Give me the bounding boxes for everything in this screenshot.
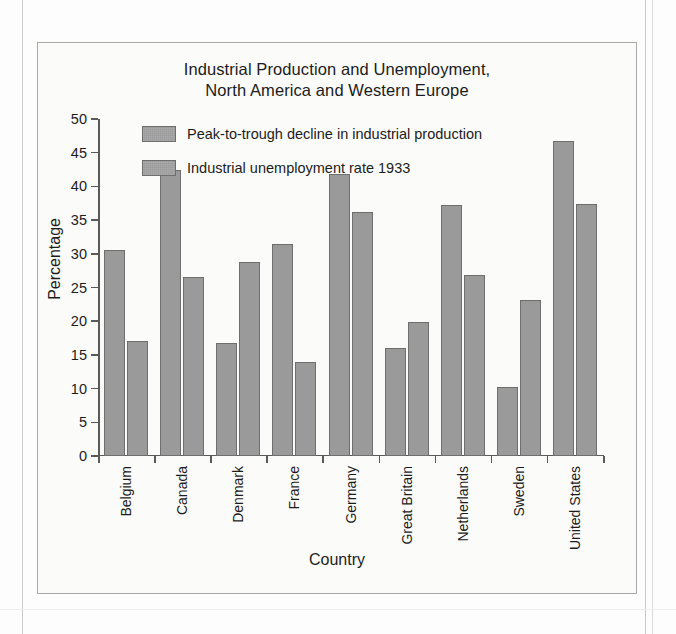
- bar: [464, 275, 485, 456]
- legend-swatch-icon: [142, 126, 176, 142]
- legend-label: Peak-to-trough decline in industrial pro…: [187, 126, 482, 142]
- y-tick-mark: [91, 354, 98, 356]
- page-crease: [0, 609, 676, 610]
- y-tick-label: 40: [71, 178, 87, 194]
- bar: [104, 250, 125, 456]
- x-tick-mark: [210, 456, 212, 463]
- bar: [553, 141, 574, 456]
- bar-group: [553, 119, 597, 456]
- x-tick-mark: [603, 456, 605, 463]
- page-edge-rule-right: [645, 0, 646, 634]
- y-tick-mark: [91, 253, 98, 255]
- x-tick-mark: [491, 456, 493, 463]
- legend-item: Peak-to-trough decline in industrial pro…: [142, 121, 482, 147]
- chart-figure-box: Industrial Production and Unemployment, …: [37, 42, 637, 594]
- scanned-page: Industrial Production and Unemployment, …: [0, 0, 676, 634]
- bar: [272, 244, 293, 456]
- bar: [216, 343, 237, 456]
- chart-legend: Peak-to-trough decline in industrial pro…: [142, 121, 482, 189]
- bar: [352, 212, 373, 456]
- bar: [183, 277, 204, 456]
- chart-title-line-2: North America and Western Europe: [38, 80, 636, 101]
- bar: [295, 362, 316, 456]
- x-tick-mark: [547, 456, 549, 463]
- bar: [497, 387, 518, 456]
- y-axis-title: Percentage: [46, 218, 64, 300]
- y-tick-mark: [91, 152, 98, 154]
- legend-item: Industrial unemployment rate 1933: [142, 155, 482, 181]
- bar: [408, 322, 429, 456]
- bar: [576, 204, 597, 456]
- x-tick-mark: [435, 456, 437, 463]
- y-axis-line: [98, 119, 100, 456]
- bar: [160, 170, 181, 456]
- bar: [385, 348, 406, 457]
- y-tick-mark: [91, 118, 98, 120]
- x-axis-title: Country: [38, 551, 636, 569]
- bar-group: [497, 119, 541, 456]
- y-tick-label: 45: [71, 145, 87, 161]
- bar: [329, 174, 350, 456]
- x-category-label: Sweden: [511, 466, 527, 517]
- bar: [520, 300, 541, 456]
- y-tick-label: 15: [71, 347, 87, 363]
- y-tick-label: 10: [71, 381, 87, 397]
- bar: [441, 205, 462, 456]
- x-category-label: Netherlands: [455, 466, 471, 542]
- y-tick-label: 20: [71, 313, 87, 329]
- legend-swatch-icon: [142, 160, 176, 176]
- y-tick-mark: [91, 186, 98, 188]
- x-tick-mark: [379, 456, 381, 463]
- x-category-label: Canada: [174, 466, 190, 515]
- page-edge-rule-right-secondary: [652, 0, 653, 634]
- chart-title: Industrial Production and Unemployment, …: [38, 59, 636, 100]
- y-tick-label: 5: [79, 414, 87, 430]
- x-category-label: Belgium: [118, 466, 134, 517]
- x-category-label: Great Britain: [399, 466, 415, 545]
- bar: [127, 341, 148, 456]
- y-tick-label: 35: [71, 212, 87, 228]
- y-tick-mark: [91, 455, 98, 457]
- y-tick-mark: [91, 388, 98, 390]
- x-category-label: Germany: [343, 466, 359, 524]
- y-tick-label: 25: [71, 280, 87, 296]
- x-tick-mark: [266, 456, 268, 463]
- x-category-label: France: [286, 466, 302, 510]
- x-tick-mark: [322, 456, 324, 463]
- y-tick-mark: [91, 422, 98, 424]
- y-tick-mark: [91, 219, 98, 221]
- y-tick-label: 0: [79, 448, 87, 464]
- chart-title-line-1: Industrial Production and Unemployment,: [38, 59, 636, 80]
- page-edge-rule-left: [22, 0, 23, 634]
- x-tick-mark: [98, 456, 100, 463]
- x-category-label: Denmark: [230, 466, 246, 523]
- x-tick-mark: [154, 456, 156, 463]
- x-category-label: United States: [567, 466, 583, 550]
- y-tick-label: 50: [71, 111, 87, 127]
- y-tick-mark: [91, 287, 98, 289]
- legend-label: Industrial unemployment rate 1933: [187, 160, 410, 176]
- y-tick-mark: [91, 320, 98, 322]
- y-tick-label: 30: [71, 246, 87, 262]
- bar: [239, 262, 260, 456]
